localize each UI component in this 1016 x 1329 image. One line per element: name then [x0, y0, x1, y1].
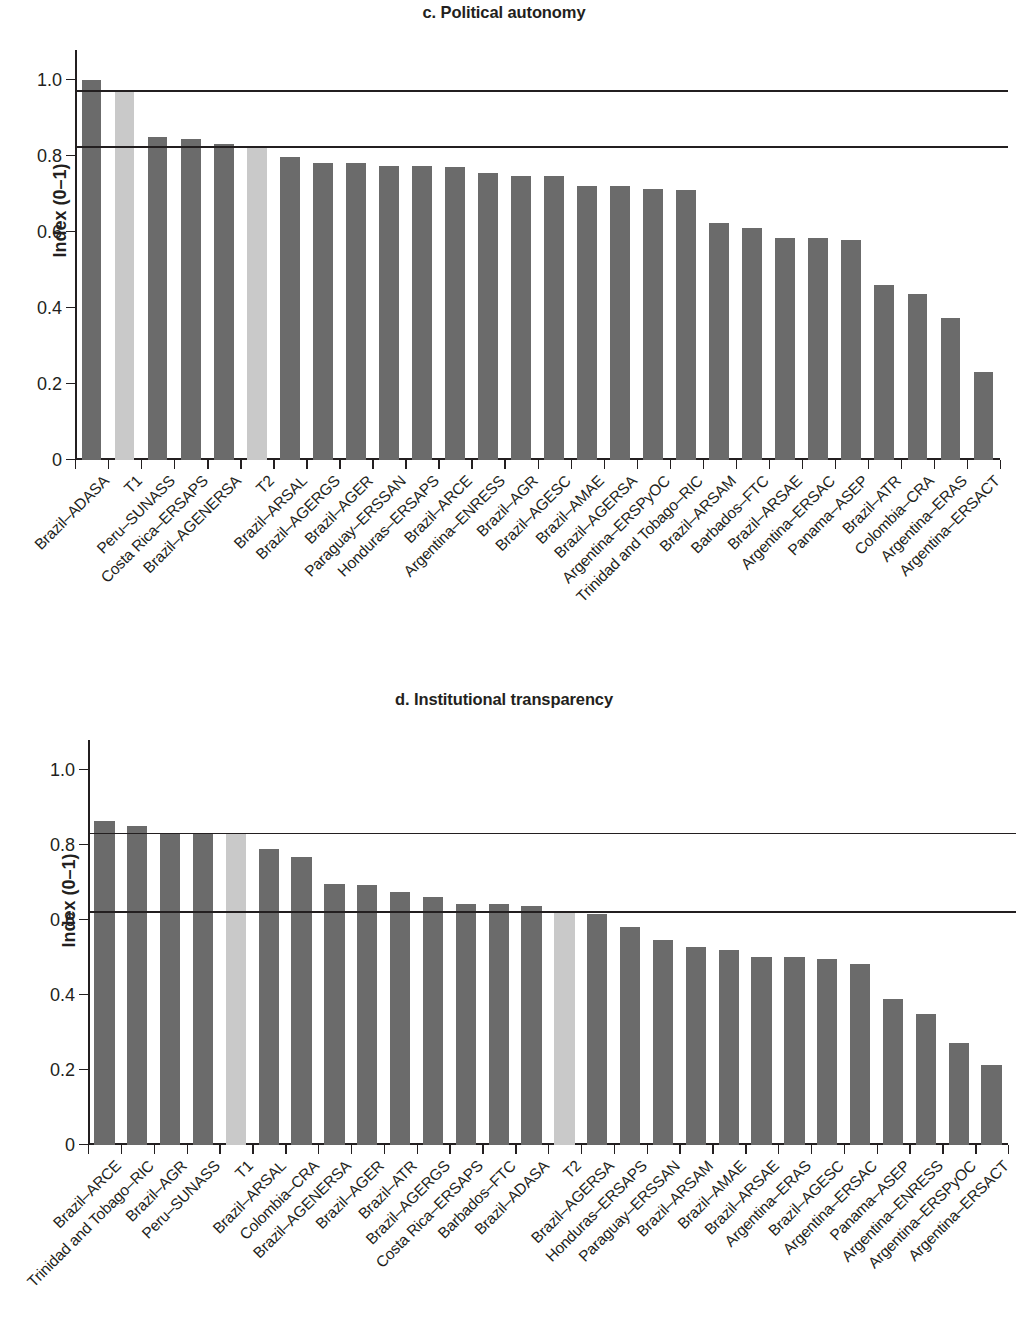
bar: [719, 950, 739, 1145]
bar: [313, 163, 333, 460]
x-tick: [548, 1145, 549, 1154]
x-tick-label: T2: [252, 472, 277, 497]
x-tick: [75, 460, 76, 469]
x-tick: [449, 1145, 450, 1154]
y-tick: [66, 155, 75, 157]
x-tick: [901, 460, 902, 469]
x-tick: [339, 460, 340, 469]
bar: [445, 167, 465, 460]
bar: [577, 186, 597, 460]
chart-c-plot-area: Index (0–1) Brazil–ADASAT1Peru–SUNASSCos…: [75, 50, 1000, 460]
x-tick: [1008, 1145, 1009, 1154]
x-tick: [306, 460, 307, 469]
bar: [94, 821, 114, 1145]
bar: [554, 913, 574, 1146]
y-tick-label: 0.6: [37, 222, 62, 243]
bar: [390, 892, 410, 1146]
x-tick: [351, 1145, 352, 1154]
bar: [981, 1065, 1001, 1145]
x-tick: [647, 1145, 648, 1154]
x-tick: [712, 1145, 713, 1154]
reference-line: [88, 911, 1016, 913]
x-tick: [679, 1145, 680, 1154]
bar: [181, 139, 201, 460]
bar: [521, 906, 541, 1145]
x-tick: [604, 460, 605, 469]
bar: [784, 957, 804, 1145]
bar: [941, 318, 961, 460]
chart-c-y-axis: [75, 50, 77, 460]
y-tick-label: 1.0: [37, 70, 62, 91]
bar: [544, 176, 564, 460]
y-tick: [66, 79, 75, 81]
bar: [160, 833, 180, 1145]
x-tick: [802, 460, 803, 469]
x-tick-label: T2: [560, 1157, 585, 1182]
x-tick: [877, 1145, 878, 1154]
y-tick-label: 0: [52, 450, 62, 471]
bar: [775, 238, 795, 460]
bar: [974, 372, 994, 460]
bar: [280, 157, 300, 460]
y-tick-label: 0.4: [50, 985, 75, 1006]
x-tick: [703, 460, 704, 469]
y-tick: [66, 383, 75, 385]
bar: [841, 240, 861, 460]
x-tick: [538, 460, 539, 469]
x-tick: [417, 1145, 418, 1154]
bar: [193, 834, 213, 1145]
x-tick: [384, 1145, 385, 1154]
x-tick: [504, 460, 505, 469]
bar: [817, 959, 837, 1145]
chart-d-x-tick-labels: Brazil–ARCETrinidad and Tobago–RICBrazil…: [88, 1145, 1008, 1329]
panel-c-title: c. Political autonomy: [0, 3, 1008, 22]
y-tick-label: 1.0: [50, 760, 75, 781]
bar: [346, 163, 366, 460]
x-tick: [285, 1145, 286, 1154]
x-tick: [273, 460, 274, 469]
bar: [478, 173, 498, 460]
bar: [949, 1043, 969, 1145]
x-tick-label: T1: [231, 1157, 256, 1182]
bar: [653, 940, 673, 1146]
bar: [916, 1014, 936, 1145]
x-tick: [778, 1145, 779, 1154]
x-tick: [207, 460, 208, 469]
x-tick: [571, 460, 572, 469]
x-tick: [141, 460, 142, 469]
bar: [808, 238, 828, 460]
bar: [247, 148, 267, 460]
x-tick: [471, 460, 472, 469]
x-tick: [1000, 460, 1001, 469]
bar: [127, 826, 147, 1145]
reference-line: [75, 90, 1008, 92]
chart-c-y-axis-title: Index (0–1): [50, 163, 71, 257]
x-tick: [670, 460, 671, 469]
bar: [291, 857, 311, 1145]
bar: [610, 186, 630, 460]
bar: [874, 285, 894, 460]
bar: [511, 176, 531, 460]
x-tick: [372, 460, 373, 469]
x-tick: [769, 460, 770, 469]
reference-line: [88, 833, 1016, 835]
y-tick: [66, 307, 75, 309]
x-tick: [581, 1145, 582, 1154]
y-tick: [79, 1144, 88, 1146]
x-tick: [121, 1145, 122, 1154]
chart-d-y-axis: [88, 740, 90, 1145]
y-tick: [79, 844, 88, 846]
x-tick: [736, 460, 737, 469]
x-tick: [240, 460, 241, 469]
bar: [883, 999, 903, 1145]
x-tick: [515, 1145, 516, 1154]
y-tick-label: 0.8: [50, 835, 75, 856]
y-tick-label: 0.6: [50, 910, 75, 931]
bar: [82, 80, 102, 460]
y-tick: [66, 231, 75, 233]
bar: [423, 897, 443, 1145]
x-tick: [811, 1145, 812, 1154]
y-tick-label: 0.2: [50, 1060, 75, 1081]
x-tick: [482, 1145, 483, 1154]
y-tick: [79, 994, 88, 996]
